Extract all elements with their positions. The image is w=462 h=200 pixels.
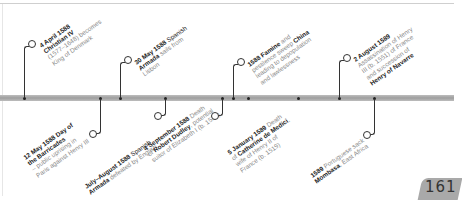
event-node-circle: [154, 112, 162, 120]
event-node-circle: [28, 40, 36, 48]
event-stem: [165, 99, 166, 111]
event-stem: [100, 99, 101, 129]
event-stem: [374, 99, 375, 130]
event-stem: [339, 64, 340, 97]
timeline-tick: [247, 97, 250, 100]
timeline-tick: [297, 97, 300, 100]
event-label-5-january-1589: 5 January 1589 Death of Catherine de Med…: [226, 110, 299, 173]
event-label-1588-famine: 1588 Famine and pestilence sweep China l…: [246, 23, 319, 86]
event-label-1589-mombasa: 1589 Portuguese sack Mombasa, East Afric…: [309, 137, 369, 185]
timeline-tick: [338, 97, 341, 100]
timeline-bar: [0, 95, 454, 101]
event-stem: [120, 66, 121, 97]
timeline-tick: [119, 97, 122, 100]
event-label-12-may-1588: 12 May 1588 Day of the Barricades – publ…: [22, 119, 90, 179]
event-label-30-may-1588: 30 May 1588 Spanish Armada sails from Li…: [133, 24, 196, 77]
event-label-2-august-1589: 2 August 1589 Assassination of Henry III…: [352, 20, 426, 87]
timeline-tick: [23, 97, 26, 100]
page-number: 161: [425, 178, 457, 196]
event-label-4-september-1588: 4 September 1588 Death of Robert Dudley,…: [142, 99, 221, 164]
event-stem: [24, 50, 25, 97]
event-node-circle: [237, 58, 245, 66]
top-rule: [0, 3, 454, 4]
event-stem: [222, 99, 223, 111]
event-label-4-april-1588: 4 April 1588 Christian IV (1577–1648) be…: [38, 6, 107, 66]
event-node-circle: [363, 131, 371, 139]
event-node-circle: [89, 130, 97, 138]
event-node-circle: [211, 112, 219, 120]
event-node-circle: [343, 54, 351, 62]
event-node-circle: [124, 56, 132, 64]
event-stem: [233, 68, 234, 97]
timeline-tick: [232, 97, 235, 100]
